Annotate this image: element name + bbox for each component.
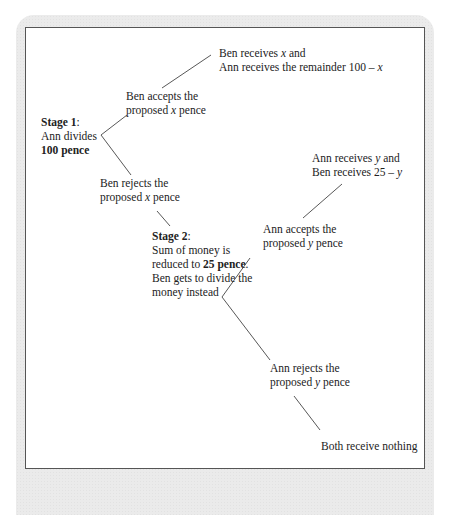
text: Ben receives	[219, 47, 281, 59]
edge-stage1-ben-accepts	[101, 115, 127, 135]
text: proposed	[263, 237, 308, 249]
text: pence	[176, 104, 206, 116]
text: Sum of money is	[152, 243, 252, 257]
edge-ben-accepts-outcome	[162, 55, 211, 88]
amount: 100 pence	[41, 144, 89, 156]
text: Ben receives 25 –	[312, 166, 397, 178]
edge-ben-rejects-stage2	[157, 211, 170, 226]
node-ben-accepts-outcome: Ben receives x and Ann receives the rema…	[219, 46, 383, 74]
edge-stage2-ann-rejects	[222, 297, 270, 360]
node-stage1: Stage 1: Ann divides 100 pence	[41, 115, 97, 157]
node-stage2: Stage 2: Sum of money is reduced to 25 p…	[152, 229, 252, 299]
text: and	[286, 47, 305, 59]
node-ben-rejects: Ben rejects the proposed x pence	[100, 176, 180, 204]
text: Ann rejects the	[270, 361, 350, 375]
node-ann-accepts: Ann accepts the proposed y pence	[263, 222, 343, 250]
node-ann-accepts-outcome: Ann receives y and Ben receives 25 – y	[312, 151, 402, 179]
text: Ann accepts the	[263, 222, 343, 236]
text: Both receive nothing	[321, 439, 417, 453]
text: Ben rejects the	[100, 176, 180, 190]
text: :	[76, 116, 79, 128]
variable: x	[377, 61, 382, 73]
amount: 25 pence	[203, 258, 245, 270]
node-ann-rejects: Ann rejects the proposed y pence	[270, 361, 350, 389]
text: pence	[150, 191, 180, 203]
text: proposed	[270, 376, 315, 388]
text: .	[246, 258, 249, 270]
text: proposed	[100, 191, 145, 203]
text: pence	[320, 376, 350, 388]
text: Ann receives	[312, 152, 375, 164]
stage-title: Stage 1	[41, 116, 76, 128]
node-ben-accepts: Ben accepts the proposed x pence	[126, 89, 206, 117]
node-ann-rejects-outcome: Both receive nothing	[321, 439, 417, 453]
text: proposed	[126, 104, 171, 116]
text: money instead	[152, 285, 252, 299]
text: pence	[313, 237, 343, 249]
text: and	[380, 152, 399, 164]
text: Ben accepts the	[126, 89, 206, 103]
stage-title: Stage 2	[152, 230, 187, 242]
text: Ann divides	[41, 129, 97, 143]
text: Ann receives the remainder 100 –	[219, 61, 377, 73]
edge-ann-rejects-outcome	[294, 396, 320, 430]
text: reduced to	[152, 258, 203, 270]
edge-ann-accepts-outcome	[303, 184, 342, 218]
text: Ben gets to divide the	[152, 271, 252, 285]
text: :	[187, 230, 190, 242]
variable: y	[397, 166, 402, 178]
edge-stage1-ben-rejects	[101, 135, 131, 175]
